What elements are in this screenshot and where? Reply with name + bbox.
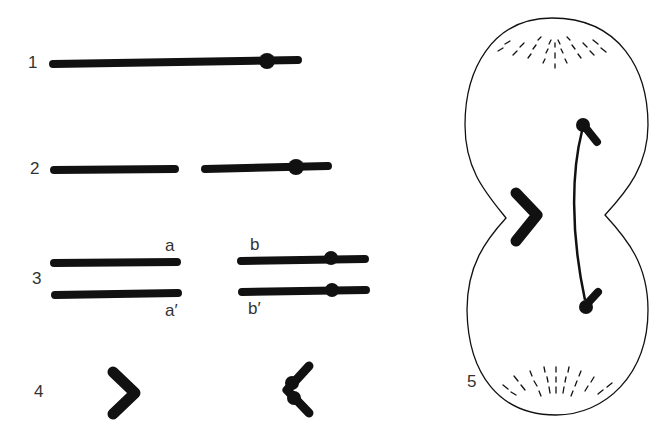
centromere-1 — [259, 53, 275, 69]
centromere-b — [324, 251, 338, 265]
centromere-b-prime — [325, 283, 339, 297]
lagging-acentric-5 — [516, 193, 537, 241]
fragment-a — [54, 262, 177, 263]
centromere-5-bottom — [579, 300, 593, 314]
panel-label-5: 5 — [467, 372, 476, 392]
sublabel-a: a — [165, 236, 174, 256]
panel-label-2: 2 — [30, 159, 39, 179]
centric-fragment-2 — [205, 166, 328, 169]
sublabel-b: b — [250, 235, 259, 255]
panel-label-3: 3 — [32, 269, 41, 289]
dicentric-bridge — [574, 131, 585, 300]
acentric-fragment-2 — [54, 169, 175, 170]
centromere-5-top — [576, 118, 590, 132]
diagram-canvas — [0, 0, 671, 435]
centromere-4a — [285, 376, 299, 390]
spindle-bottom — [503, 367, 612, 396]
panel-label-4: 4 — [34, 382, 43, 402]
panel-label-1: 1 — [28, 53, 37, 73]
fragment-b-prime — [242, 290, 366, 292]
centromere-4b — [287, 391, 301, 405]
acentric-v-4 — [113, 372, 135, 414]
fragment-a-prime — [55, 293, 178, 295]
sublabel-b-prime: b′ — [248, 299, 261, 319]
spindle-top — [498, 37, 606, 68]
centromere-2 — [288, 159, 304, 175]
cell-outline — [465, 18, 648, 415]
sublabel-a-prime: a′ — [165, 301, 178, 321]
fragment-b — [241, 259, 365, 261]
